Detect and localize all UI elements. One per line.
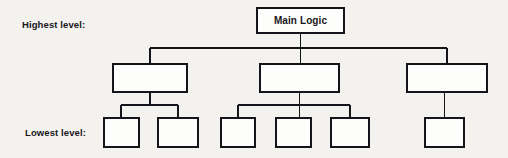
node-leaf-5[interactable] <box>330 117 370 148</box>
node-mid-2[interactable] <box>259 63 340 93</box>
node-leaf-4[interactable] <box>275 117 312 148</box>
highest-level-label: Highest level: <box>22 20 85 30</box>
node-main-logic[interactable]: Main Logic <box>256 7 345 34</box>
node-leaf-3[interactable] <box>220 117 256 148</box>
node-leaf-2[interactable] <box>157 117 199 148</box>
node-leaf-6[interactable] <box>424 117 465 148</box>
node-mid-1[interactable] <box>112 63 188 93</box>
node-mid-3[interactable] <box>406 63 488 93</box>
diagram-canvas: Highest level: Lowest level: Main <box>0 0 508 158</box>
lowest-level-label: Lowest level: <box>25 128 86 138</box>
node-leaf-1[interactable] <box>103 117 140 148</box>
node-main-logic-label: Main Logic <box>274 16 327 26</box>
